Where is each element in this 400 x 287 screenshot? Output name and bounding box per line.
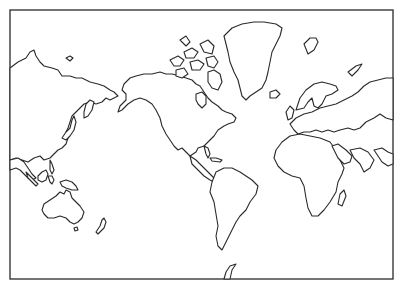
region-sulawesi [48,176,54,184]
region-arctic-island-6 [176,68,188,78]
region-greenland [224,22,282,100]
region-borneo [38,170,48,182]
region-asia-east [10,50,118,162]
region-arctic-island-5 [206,56,218,68]
region-arctic-island-4 [200,40,214,54]
region-arctic-island-2 [184,48,198,58]
region-tasmania [74,227,78,231]
region-antarctic-peninsula [224,264,236,279]
region-novaya-zemlya [348,64,362,76]
world-map [0,0,400,287]
region-arctic-island-3 [190,60,204,70]
region-south-america [210,168,258,250]
region-indochina-right [374,148,393,166]
region-svalbard [304,38,318,54]
region-arctic-island-7 [180,36,190,46]
region-baffin-island [208,70,222,90]
region-british-isles [286,106,294,120]
region-florida [204,146,210,158]
region-arctic-island-1 [170,56,184,66]
region-new-guinea [60,180,78,190]
region-australia [42,190,84,224]
region-new-zealand [96,218,106,234]
region-southeast-asia [10,158,36,180]
region-madagascar [338,190,346,206]
region-philippines [50,160,54,174]
region-south-asia [350,148,374,172]
region-iceland [270,90,280,98]
region-wrangel-island [66,56,73,61]
region-cuba [210,158,222,162]
